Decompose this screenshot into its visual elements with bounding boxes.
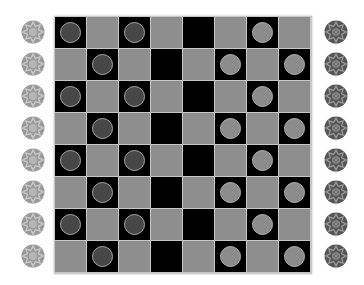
board-square-r4-c5[interactable] [215,145,246,176]
board-square-r3-c0[interactable] [55,113,86,144]
board-square-r6-c7[interactable] [279,209,310,240]
right-reserve-tokens [324,20,348,268]
light-checker-piece[interactable] [252,22,273,43]
board-square-r3-c2[interactable] [119,113,150,144]
dark-checker-piece[interactable] [124,214,145,235]
left-star-token-icon [21,20,45,44]
board-square-r0-c7[interactable] [279,17,310,48]
dark-checker-piece[interactable] [92,246,113,267]
board-square-r5-c3[interactable] [151,177,182,208]
board-square-r3-c6[interactable] [247,113,278,144]
board-square-r5-c6[interactable] [247,177,278,208]
board-square-r2-c5[interactable] [215,81,246,112]
left-star-token-icon [21,116,45,140]
board-square-r2-c6[interactable] [247,81,278,112]
board-square-r7-c7[interactable] [279,241,310,272]
dark-checker-piece[interactable] [92,182,113,203]
board-square-r0-c4[interactable] [183,17,214,48]
board-square-r1-c2[interactable] [119,49,150,80]
light-checker-piece[interactable] [284,118,305,139]
left-star-token-icon [21,180,45,204]
dark-checker-piece[interactable] [124,22,145,43]
board-square-r5-c0[interactable] [55,177,86,208]
light-checker-piece[interactable] [220,54,241,75]
right-star-token-icon [324,244,348,268]
dark-checker-piece[interactable] [92,118,113,139]
board-square-r5-c1[interactable] [87,177,118,208]
board-square-r1-c5[interactable] [215,49,246,80]
dark-checker-piece[interactable] [124,86,145,107]
light-checker-piece[interactable] [220,246,241,267]
board-square-r6-c4[interactable] [183,209,214,240]
board-square-r4-c2[interactable] [119,145,150,176]
board-square-r2-c4[interactable] [183,81,214,112]
board-square-r4-c0[interactable] [55,145,86,176]
dark-checker-piece[interactable] [60,214,81,235]
board-square-r7-c1[interactable] [87,241,118,272]
board-square-r7-c2[interactable] [119,241,150,272]
board-square-r1-c1[interactable] [87,49,118,80]
dark-checker-piece[interactable] [92,54,113,75]
board-square-r6-c0[interactable] [55,209,86,240]
board-square-r7-c0[interactable] [55,241,86,272]
board-square-r1-c6[interactable] [247,49,278,80]
left-star-token-icon [21,52,45,76]
board-square-r2-c0[interactable] [55,81,86,112]
board-square-r1-c3[interactable] [151,49,182,80]
right-star-token-icon [324,148,348,172]
board-square-r6-c6[interactable] [247,209,278,240]
light-checker-piece[interactable] [220,182,241,203]
board-square-r4-c6[interactable] [247,145,278,176]
board-square-r4-c1[interactable] [87,145,118,176]
board-square-r0-c3[interactable] [151,17,182,48]
light-checker-piece[interactable] [220,118,241,139]
board-square-r6-c5[interactable] [215,209,246,240]
board-square-r5-c7[interactable] [279,177,310,208]
board-square-r5-c4[interactable] [183,177,214,208]
board-square-r3-c7[interactable] [279,113,310,144]
light-checker-piece[interactable] [284,182,305,203]
board-square-r3-c4[interactable] [183,113,214,144]
board-square-r6-c2[interactable] [119,209,150,240]
dark-checker-piece[interactable] [60,150,81,171]
board-square-r7-c5[interactable] [215,241,246,272]
dark-checker-piece[interactable] [124,150,145,171]
board-square-r0-c6[interactable] [247,17,278,48]
board-square-r1-c7[interactable] [279,49,310,80]
board-square-r3-c3[interactable] [151,113,182,144]
dark-checker-piece[interactable] [60,86,81,107]
board-square-r1-c0[interactable] [55,49,86,80]
board-square-r6-c1[interactable] [87,209,118,240]
checkers-board[interactable] [54,16,312,274]
dark-checker-piece[interactable] [60,22,81,43]
board-square-r4-c7[interactable] [279,145,310,176]
light-checker-piece[interactable] [252,86,273,107]
light-checker-piece[interactable] [252,214,273,235]
board-square-r5-c2[interactable] [119,177,150,208]
board-square-r0-c1[interactable] [87,17,118,48]
board-square-r4-c3[interactable] [151,145,182,176]
board-square-r5-c5[interactable] [215,177,246,208]
right-star-token-icon [324,52,348,76]
right-star-token-icon [324,180,348,204]
left-star-token-icon [21,84,45,108]
light-checker-piece[interactable] [252,150,273,171]
board-square-r2-c1[interactable] [87,81,118,112]
light-checker-piece[interactable] [284,54,305,75]
board-square-r4-c4[interactable] [183,145,214,176]
board-square-r0-c5[interactable] [215,17,246,48]
board-square-r2-c7[interactable] [279,81,310,112]
light-checker-piece[interactable] [284,246,305,267]
board-square-r7-c3[interactable] [151,241,182,272]
board-square-r2-c2[interactable] [119,81,150,112]
board-square-r0-c0[interactable] [55,17,86,48]
board-square-r1-c4[interactable] [183,49,214,80]
board-square-r3-c5[interactable] [215,113,246,144]
board-square-r6-c3[interactable] [151,209,182,240]
left-reserve-tokens [21,20,45,268]
board-square-r7-c6[interactable] [247,241,278,272]
board-square-r2-c3[interactable] [151,81,182,112]
board-square-r7-c4[interactable] [183,241,214,272]
board-square-r3-c1[interactable] [87,113,118,144]
board-square-r0-c2[interactable] [119,17,150,48]
